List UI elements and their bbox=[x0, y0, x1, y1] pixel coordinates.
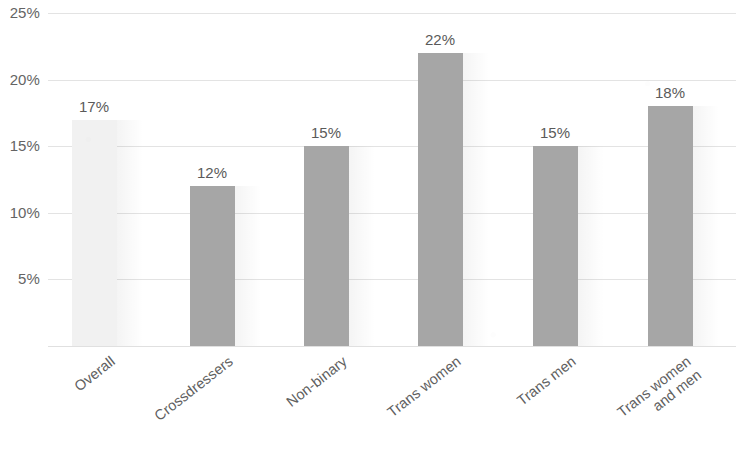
bar-group-overall: 17% bbox=[72, 120, 117, 346]
bar-crossdressers bbox=[190, 186, 235, 346]
bar-value-label-trans-women: 22% bbox=[425, 32, 455, 47]
y-axis-tick-label-10: 10% bbox=[10, 205, 40, 220]
y-axis: 25% 20% 15% 10% 5% bbox=[0, 0, 46, 347]
bar-value-label-trans-men: 15% bbox=[540, 125, 570, 140]
x-axis-label-overall: Overall bbox=[0, 353, 118, 465]
bar-value-label-crossdressers: 12% bbox=[197, 165, 227, 180]
bar-shadow bbox=[578, 146, 604, 346]
bar-shadow bbox=[349, 146, 375, 346]
plot-area: 17% 12% 15% 22% 15% 18% bbox=[48, 0, 736, 347]
bar-trans-women-and-men bbox=[648, 106, 693, 346]
bar-value-label-non-binary: 15% bbox=[311, 125, 341, 140]
bar-group-crossdressers: 12% bbox=[190, 186, 235, 346]
bar-value-label-overall: 17% bbox=[79, 99, 109, 114]
bar-shadow bbox=[235, 186, 261, 346]
bar-shadow bbox=[693, 106, 719, 346]
y-axis-tick-label-25: 25% bbox=[10, 5, 40, 20]
bar-overall bbox=[72, 120, 117, 346]
bar-group-trans-women-and-men: 18% bbox=[648, 106, 693, 346]
bar-group-trans-women: 22% bbox=[418, 53, 463, 346]
bar-trans-men bbox=[533, 146, 578, 346]
bar-non-binary bbox=[304, 146, 349, 346]
bar-trans-women bbox=[418, 53, 463, 346]
y-axis-tick-label-20: 20% bbox=[10, 72, 40, 87]
bar-shadow bbox=[117, 120, 143, 346]
bar-group-non-binary: 15% bbox=[304, 146, 349, 346]
x-axis: Overall Crossdressers Non-binary Trans w… bbox=[48, 347, 736, 465]
y-axis-tick-label-5: 5% bbox=[18, 271, 40, 286]
bar-series: 17% 12% 15% 22% 15% 18% bbox=[48, 0, 736, 347]
bar-group-trans-men: 15% bbox=[533, 146, 578, 346]
bar-shadow bbox=[463, 53, 489, 346]
bar-chart: 25% 20% 15% 10% 5% 17% 12% 15% bbox=[0, 0, 736, 465]
y-axis-tick-label-15: 15% bbox=[10, 138, 40, 153]
bar-value-label-trans-women-and-men: 18% bbox=[655, 85, 685, 100]
